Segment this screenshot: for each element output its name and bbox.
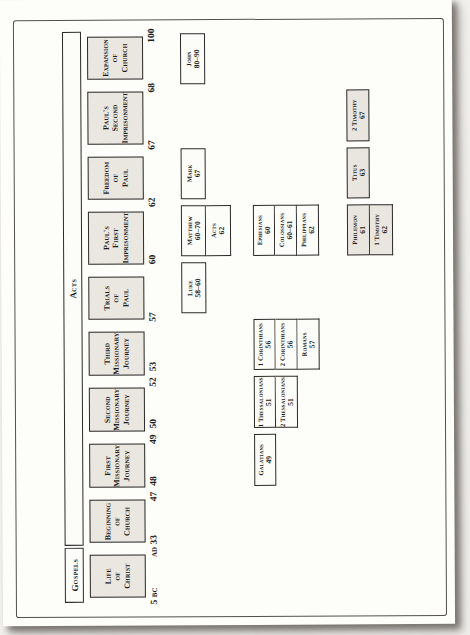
- book-colossians: Colossians 60–61: [275, 204, 297, 255]
- book-john-name: John: [185, 51, 192, 66]
- book-philippians: Philippians 62: [297, 204, 319, 255]
- new-testament-timeline-diagram: Gospels Acts Life of Christ Beginning of…: [14, 19, 443, 614]
- axis-date-49: 49: [148, 434, 169, 444]
- era-life-of-christ: Life of Christ: [90, 555, 146, 598]
- book-matthew-name: Matthew: [186, 216, 193, 245]
- book-ephesians: Ephesians 60: [253, 204, 275, 255]
- book-ephesians-date: 60: [264, 226, 272, 234]
- axis-date-57: 57: [147, 312, 168, 322]
- axis-date-68: 68: [146, 83, 167, 93]
- axis-date-49-50: 49 50: [148, 419, 169, 444]
- book-galatians-date: 49: [265, 456, 273, 464]
- book-2-timothy-date: 67: [358, 111, 366, 119]
- group-corinthians-romans: 1 Corinthians 56 2 Corinthians 56 Romans…: [253, 319, 319, 371]
- axis-date-53: 53: [148, 362, 169, 372]
- axis-date-ad33: AD 33: [149, 535, 170, 557]
- book-mark: Mark 67: [181, 148, 206, 199]
- acts-span-bar: Acts: [62, 32, 84, 546]
- book-matthew-date: 60–70: [194, 221, 202, 240]
- book-philippians-name: Philippians: [300, 213, 307, 247]
- era-second-missionary-journey: Second Missionary Journey: [89, 388, 145, 432]
- span-bars-row: Gospels Acts: [62, 37, 84, 598]
- group-matthew-acts: Matthew 60–70 Acts 62: [181, 205, 231, 257]
- group-mark: Mark 67: [181, 148, 206, 199]
- book-2-corinthians-name: 2 Corinthians: [278, 323, 285, 366]
- book-philippians-date: 62: [308, 226, 316, 234]
- group-philemon-timothy: Philemon 61 1 Timothy 62: [347, 204, 393, 256]
- gospels-span-bar: Gospels: [65, 547, 84, 602]
- axis-date-100: 100: [146, 28, 167, 42]
- era-pauls-first-imprisonment: Paul's First Imprisonment: [88, 211, 144, 265]
- book-romans-date: 57: [308, 341, 316, 349]
- book-page: Gospels Acts Life of Christ Beginning of…: [0, 0, 455, 626]
- book-2-corinthians-date: 56: [286, 341, 294, 349]
- book-titus-date: 63: [358, 169, 366, 177]
- book-luke: Luke 58–60: [181, 262, 206, 313]
- book-titus-name: Titus: [350, 164, 357, 181]
- era-trials-of-paul: Trials of Paul: [88, 277, 144, 320]
- axis-date-48: 48: [148, 476, 169, 486]
- book-2-timothy-name: 2 Timothy: [350, 100, 357, 132]
- axis-date-52-53: 52 53: [148, 362, 169, 387]
- book-galatians: Galatians 49: [254, 434, 276, 485]
- axis-date-47-48: 47 48: [148, 476, 169, 501]
- figure-frame: Gospels Acts Life of Christ Beginning of…: [13, 18, 447, 618]
- book-2-thessalonians-name: 2 Thessalonians: [278, 377, 285, 427]
- date-axis: 5 BC AD 33 47 48 49 50 52 53 57 60 62 67: [143, 36, 170, 597]
- group-galatians: Galatians 49: [254, 434, 276, 485]
- book-colossians-date: 60–61: [286, 221, 294, 240]
- book-2-timothy: 2 Timothy 67: [346, 90, 369, 141]
- era-beginning-of-church: Beginning of Church: [89, 500, 145, 543]
- book-2-thessalonians-date: 51: [287, 398, 295, 406]
- book-mark-name: Mark: [185, 165, 192, 183]
- book-2-corinthians: 2 Corinthians 56: [275, 319, 297, 370]
- book-john: John 80–90: [180, 33, 205, 84]
- book-acts-name: Acts: [210, 223, 217, 238]
- era-first-missionary-journey: First Missionary Journey: [89, 444, 145, 488]
- book-romans: Romans 57: [297, 319, 319, 370]
- book-philemon-date: 61: [359, 226, 367, 234]
- book-luke-name: Luke: [186, 280, 193, 296]
- book-1-timothy: 1 Timothy 62: [370, 204, 393, 255]
- group-luke: Luke 58–60: [181, 262, 206, 313]
- book-2-thessalonians: 2 Thessalonians 51: [276, 376, 298, 428]
- book-1-thessalonians-date: 51: [265, 398, 273, 406]
- era-third-missionary-journey: Third Missionary Journey: [89, 331, 145, 375]
- group-john: John 80–90: [180, 33, 205, 84]
- epistles-row-2: Philemon 61 1 Timothy 62 Titus 63: [346, 35, 395, 596]
- axis-date-52: 52: [148, 377, 169, 387]
- axis-date-5bc: 5 BC: [149, 587, 170, 604]
- group-2-timothy: 2 Timothy 67: [346, 90, 369, 141]
- era-expansion-of-church: Expansion of Church: [87, 36, 143, 79]
- era-freedom-of-paul: Freedom of Paul: [88, 157, 144, 200]
- axis-date-62: 62: [147, 197, 168, 207]
- book-titus: Titus 63: [347, 147, 370, 198]
- book-philemon-name: Philemon: [351, 215, 358, 245]
- book-mark-date: 67: [193, 170, 201, 178]
- axis-date-60: 60: [147, 255, 168, 265]
- axis-date-50: 50: [148, 419, 169, 429]
- group-thessalonians: 1 Thessalonians 51 2 Thessalonians 51: [254, 376, 298, 428]
- book-luke-date: 58–60: [194, 279, 202, 298]
- book-matthew: Matthew 60–70: [181, 205, 206, 256]
- epistles-row-1: Galatians 49 1 Thessalonians 51 2 Thessa…: [252, 36, 321, 597]
- book-acts: Acts 62: [206, 205, 231, 256]
- book-acts-date: 62: [218, 227, 226, 235]
- book-philemon: Philemon 61: [347, 204, 370, 255]
- book-1-timothy-date: 62: [381, 226, 389, 234]
- book-1-corinthians-date: 56: [265, 341, 273, 349]
- book-1-corinthians: 1 Corinthians 56: [253, 319, 275, 370]
- era-pauls-second-imprisonment: Paul's Second Imprisonment: [87, 91, 143, 145]
- book-1-thessalonians: 1 Thessalonians 51: [254, 376, 276, 428]
- book-john-date: 80–90: [193, 49, 201, 68]
- book-romans-name: Romans: [300, 332, 307, 356]
- group-titus: Titus 63: [347, 147, 370, 198]
- axis-date-47: 47: [148, 492, 169, 502]
- group-prison-epistles: Ephesians 60 Colossians 60–61 Philippian…: [253, 204, 319, 256]
- era-boxes-row: Life of Christ Beginning of Church First…: [87, 36, 146, 597]
- axis-date-67: 67: [147, 140, 168, 150]
- book-colossians-name: Colossians: [278, 213, 285, 247]
- gospels-books-row: Luke 58–60 Matthew 60–70 Acts 62: [180, 36, 233, 597]
